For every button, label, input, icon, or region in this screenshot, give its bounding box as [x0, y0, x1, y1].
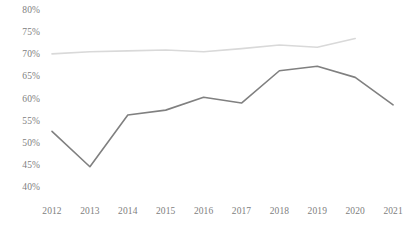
x-axis-tick-label: 2013 [80, 207, 99, 217]
x-axis-tick-label: 2021 [383, 207, 402, 217]
x-axis: 2012201320142015201620172018201920202021 [0, 0, 409, 233]
x-axis-tick-label: 2020 [345, 207, 364, 217]
x-axis-tick-label: 2017 [232, 207, 251, 217]
x-axis-tick-label: 2015 [156, 207, 175, 217]
x-axis-tick-label: 2012 [42, 207, 61, 217]
x-axis-tick-label: 2019 [308, 207, 327, 217]
line-chart: 80%75%70%65%60%55%50%45%40% 201220132014… [0, 0, 409, 233]
x-axis-tick-label: 2014 [118, 207, 137, 217]
x-axis-tick-label: 2018 [270, 207, 289, 217]
x-axis-tick-label: 2016 [194, 207, 213, 217]
